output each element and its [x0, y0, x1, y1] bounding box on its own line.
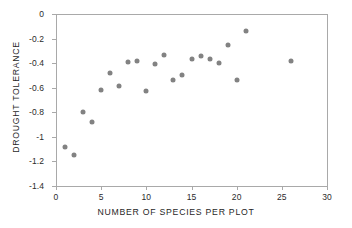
data-point	[90, 120, 95, 125]
x-tick-label: 5	[99, 192, 104, 202]
x-tick-mark	[56, 186, 57, 190]
x-tick-label: 25	[277, 192, 287, 202]
scatter-chart-figure: 0-0.2-0.4-0.6-0.8-1-1.2-1.4 051015202530…	[0, 0, 352, 228]
y-tick-mark	[52, 39, 56, 40]
y-tick-label: -0.8	[0, 107, 44, 117]
data-point	[99, 88, 104, 93]
x-tick-mark	[282, 186, 283, 190]
x-tick-label: 15	[187, 192, 197, 202]
data-point	[162, 52, 167, 57]
x-tick-mark	[146, 186, 147, 190]
data-point	[153, 62, 158, 67]
data-point	[108, 70, 113, 75]
data-point	[81, 110, 86, 115]
plot-right-border	[327, 14, 328, 186]
x-tick-mark	[327, 186, 328, 190]
data-point	[135, 58, 140, 63]
y-axis-label: DROUGHT TOLERANCE	[11, 17, 21, 177]
x-axis-label: NUMBER OF SPECIES PER PLOT	[0, 207, 352, 217]
y-tick-mark	[52, 88, 56, 89]
y-tick-label: -0.2	[0, 34, 44, 44]
data-point	[180, 73, 185, 78]
data-point	[63, 144, 68, 149]
x-tick-label: 10	[142, 192, 152, 202]
x-tick-label: 30	[322, 192, 332, 202]
data-point	[243, 29, 248, 34]
y-tick-mark	[52, 112, 56, 113]
x-tick-label: 20	[232, 192, 242, 202]
data-point	[198, 53, 203, 58]
y-tick-label: -0.4	[0, 58, 44, 68]
y-tick-label: -0.6	[0, 83, 44, 93]
x-tick-mark	[237, 186, 238, 190]
plot-area	[56, 14, 327, 186]
y-tick-label: -1.4	[0, 181, 44, 191]
data-point	[207, 57, 212, 62]
x-tick-mark	[192, 186, 193, 190]
data-point	[189, 57, 194, 62]
data-point	[72, 153, 77, 158]
data-point	[234, 78, 239, 83]
x-tick-mark	[101, 186, 102, 190]
y-tick-mark	[52, 14, 56, 15]
data-point	[117, 84, 122, 89]
data-point	[216, 61, 221, 66]
data-point	[144, 89, 149, 94]
y-tick-mark	[52, 161, 56, 162]
data-point	[225, 42, 230, 47]
y-tick-label: -1.2	[0, 156, 44, 166]
data-point	[171, 78, 176, 83]
x-tick-label: 0	[54, 192, 59, 202]
y-tick-label: -1	[0, 132, 44, 142]
y-tick-mark	[52, 63, 56, 64]
y-tick-mark	[52, 137, 56, 138]
data-point	[288, 58, 293, 63]
y-tick-label: 0	[0, 9, 44, 19]
data-point	[126, 59, 131, 64]
